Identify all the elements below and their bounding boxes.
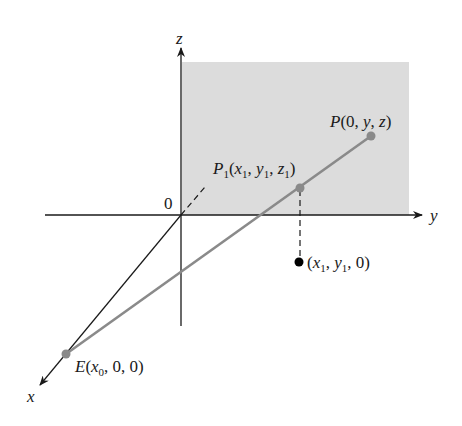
yz-plane bbox=[182, 62, 409, 215]
point-projection bbox=[295, 258, 304, 267]
x-axis-label: x bbox=[26, 387, 35, 406]
projection-diagram: z y x 0 P(0, y, z) P1(x1, y1, z1) (x1, y… bbox=[0, 0, 462, 426]
point-P bbox=[367, 132, 376, 141]
label-projection: (x1, y1, 0) bbox=[307, 253, 370, 274]
label-E: E(x0, 0, 0) bbox=[74, 357, 144, 378]
point-E bbox=[62, 350, 71, 359]
y-axis-label: y bbox=[428, 206, 438, 225]
point-P1 bbox=[296, 184, 305, 193]
z-axis-label: z bbox=[175, 29, 183, 48]
origin-label: 0 bbox=[164, 194, 173, 213]
label-P: P(0, y, z) bbox=[329, 112, 391, 131]
